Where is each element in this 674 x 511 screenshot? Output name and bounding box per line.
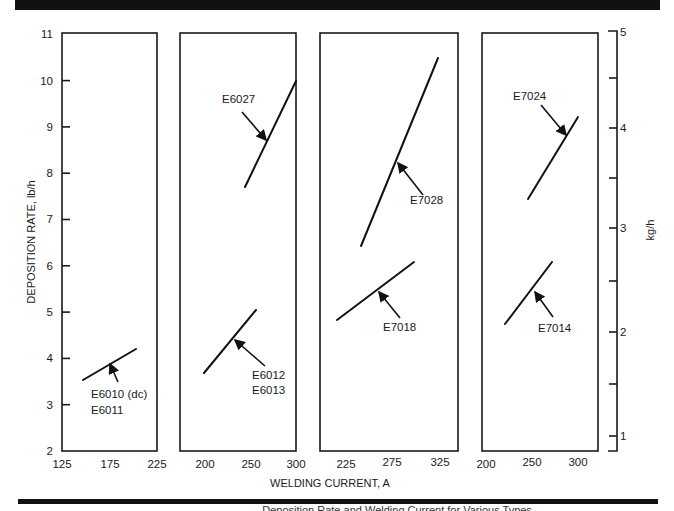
- y-tick-2: 2: [47, 445, 53, 457]
- arrow-e6010: [110, 364, 118, 382]
- series-e7024: [528, 117, 578, 199]
- arrow-e7028: [398, 163, 423, 195]
- arrow-e7014: [535, 292, 553, 317]
- figure-caption-partial: ... Deposition Rate and Welding Current …: [250, 505, 670, 511]
- label-e6011: E6011: [91, 404, 123, 416]
- panel-3-frame: [320, 33, 458, 451]
- label-e7024: E7024: [513, 90, 547, 102]
- label-e6010: E6010 (dc): [91, 388, 147, 400]
- series-e6012-e6013: [204, 310, 256, 373]
- y2-tick-5: 5: [620, 26, 626, 38]
- y-tick-3: 3: [47, 399, 53, 411]
- x-tick-p4-200: 200: [476, 458, 495, 470]
- y-tick-5: 5: [47, 306, 53, 318]
- arrow-e6012: [235, 340, 265, 366]
- arrow-e6027: [242, 112, 266, 140]
- y2-tick-2: 2: [620, 326, 626, 338]
- x-tick-p1-125: 125: [52, 458, 71, 470]
- chart-svg: 2 3 4 5 6 7 8 9 10 11 DEPOSITION RATE, l…: [0, 0, 674, 511]
- x-tick-p1-225: 225: [147, 458, 166, 470]
- arrow-e7024: [541, 105, 566, 135]
- y-tick-11: 11: [41, 28, 53, 40]
- x-tick-p3-325: 325: [430, 456, 449, 468]
- series-labels: E6010 (dc) E6011 E6027 E6012 E6013 E7028…: [91, 90, 572, 416]
- series-e7018: [337, 262, 414, 320]
- series-e7014: [505, 262, 552, 324]
- y-tick-4: 4: [47, 352, 54, 364]
- y2-tick-1: 1: [620, 430, 626, 442]
- right-axis-labels: 5 4 3 2 1: [620, 26, 627, 442]
- x-tick-p4-250: 250: [522, 456, 541, 468]
- right-axis: [608, 31, 617, 451]
- x-tick-p4-300: 300: [568, 456, 587, 468]
- y-axis-title: DEPOSITION RATE, lb/h: [25, 180, 37, 303]
- label-e7018: E7018: [383, 321, 416, 333]
- label-e7028: E7028: [410, 194, 443, 206]
- x-axis-labels: 125 175 225 200 250 300 225 275 325 200 …: [52, 456, 587, 470]
- label-e6013: E6013: [252, 384, 285, 396]
- x-tick-p3-275: 275: [382, 456, 401, 468]
- x-tick-p1-175: 175: [100, 458, 119, 470]
- bottom-rule: [18, 499, 658, 504]
- label-e6027: E6027: [222, 93, 255, 105]
- label-e7014: E7014: [538, 322, 572, 334]
- y-tick-9: 9: [47, 121, 53, 133]
- x-tick-p2-200: 200: [195, 458, 214, 470]
- y2-axis-title: kg/h: [644, 220, 656, 241]
- left-axis-ticks: [62, 81, 70, 405]
- arrow-e7018: [379, 292, 400, 318]
- y-tick-7: 7: [47, 213, 53, 225]
- y-tick-10: 10: [40, 75, 53, 87]
- y-tick-8: 8: [47, 167, 53, 179]
- series-e7028: [361, 58, 438, 246]
- x-axis-title: WELDING CURRENT, A: [270, 477, 390, 489]
- x-tick-p2-300: 300: [286, 458, 305, 470]
- x-tick-p2-250: 250: [241, 458, 260, 470]
- y2-tick-3: 3: [620, 222, 626, 234]
- label-e6012: E6012: [252, 369, 285, 381]
- x-tick-p3-225: 225: [336, 458, 355, 470]
- y2-tick-4: 4: [620, 122, 627, 134]
- left-axis-labels: 2 3 4 5 6 7 8 9 10 11: [40, 28, 53, 457]
- y-tick-6: 6: [47, 260, 53, 272]
